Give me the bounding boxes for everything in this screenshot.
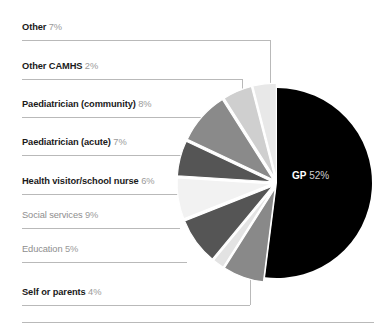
callout-pct-social-services: 9% (85, 210, 98, 220)
callout-label-social-services: Social services 9% (22, 210, 98, 221)
callout-label-paediatrician-acute: Paediatrician (acute) 7% (22, 137, 127, 148)
leader-line-other (22, 40, 270, 41)
pie-slice-label-gp-pct: 52% (309, 170, 329, 181)
callout-pct-paediatrician-community: 8% (138, 99, 151, 109)
callout-pct-other-camhs: 2% (85, 61, 98, 71)
callout-pct-education: 5% (65, 244, 78, 254)
callout-name-other-camhs: Other CAMHS (22, 61, 82, 71)
callout-name-self-or-parents: Self or parents (22, 287, 86, 297)
pie-chart (172, 78, 378, 288)
callout-label-other: Other 7% (22, 22, 62, 33)
callout-label-education: Education 5% (22, 244, 78, 255)
footer-divider (22, 322, 374, 323)
leader-line-paediatrician-acute (22, 155, 192, 156)
leader-line-health-visitor (22, 194, 180, 195)
leader-line-self-or-parents (22, 305, 250, 306)
callout-label-other-camhs: Other CAMHS 2% (22, 61, 98, 72)
callout-label-self-or-parents: Self or parents 4% (22, 287, 101, 298)
callout-name-paediatrician-community: Paediatrician (community) (22, 99, 136, 109)
callout-pct-health-visitor: 6% (141, 176, 154, 186)
callout-name-social-services: Social services (22, 210, 83, 220)
callout-name-education: Education (22, 244, 62, 254)
pie-chart-figure: Other 7% Other CAMHS 2% Paediatrician (c… (0, 0, 382, 333)
callout-label-paediatrician-community: Paediatrician (community) 8% (22, 99, 151, 110)
pie-slice-gp[interactable] (265, 88, 372, 278)
callout-label-health-visitor: Health visitor/school nurse 6% (22, 176, 154, 187)
leader-line-education (22, 262, 187, 263)
pie-svg (172, 78, 378, 288)
callout-pct-other: 7% (49, 22, 62, 32)
callout-name-paediatrician-acute: Paediatrician (acute) (22, 137, 111, 147)
callout-pct-self-or-parents: 4% (88, 287, 101, 297)
callout-pct-paediatrician-acute: 7% (113, 137, 126, 147)
leader-line-social-services (22, 228, 180, 229)
pie-slice-label-gp-name: GP (292, 170, 306, 181)
pie-slice-label-gp: GP 52% (292, 170, 329, 181)
callout-name-other: Other (22, 22, 46, 32)
callout-name-health-visitor: Health visitor/school nurse (22, 176, 139, 186)
